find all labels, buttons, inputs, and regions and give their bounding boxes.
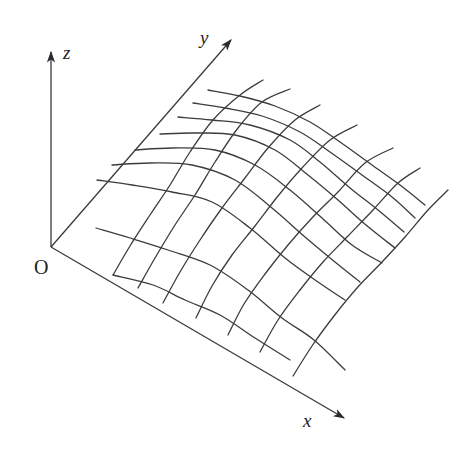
x-axis-label: x (303, 411, 311, 430)
mesh-line-x (96, 228, 345, 370)
y-axis (51, 40, 231, 247)
diagram-canvas (0, 0, 471, 456)
surface-mesh (96, 80, 448, 376)
mesh-line-x (178, 117, 404, 232)
z-axis-label: z (63, 43, 70, 62)
mesh-line-y (113, 80, 263, 275)
mesh-line-x (160, 133, 395, 248)
mesh-line-y (163, 105, 320, 303)
mesh-line-x (113, 275, 290, 360)
mesh-line-y (293, 190, 448, 376)
y-axis-label: y (200, 28, 208, 47)
mesh-line-x (112, 163, 360, 282)
surface-diagram: z y x O (0, 0, 471, 456)
origin-label: O (34, 257, 48, 277)
mesh-line-y (260, 168, 420, 352)
x-axis (51, 247, 344, 418)
